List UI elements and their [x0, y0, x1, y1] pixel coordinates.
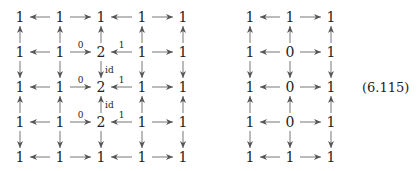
diagram-node: 2 [97, 79, 106, 95]
diagram-node: 0 [286, 44, 295, 60]
diagram-node: 1 [179, 114, 188, 130]
arrow-label: id [105, 100, 114, 110]
diagram-node: 1 [138, 114, 147, 130]
diagram-node: 2 [97, 114, 106, 130]
equation-number: (6.115) [362, 80, 409, 95]
diagram-node: 1 [16, 114, 25, 130]
arrow-label: 0 [78, 75, 84, 85]
diagram-node: 1 [179, 9, 188, 25]
diagram-node: 1 [16, 44, 25, 60]
diagram-node: 1 [327, 79, 336, 95]
diagram-node: 1 [246, 79, 255, 95]
diagram-node: 1 [138, 149, 147, 165]
diagram-node: 1 [246, 114, 255, 130]
diagram-node: 1 [138, 9, 147, 25]
diagram-node: 1 [327, 114, 336, 130]
diagram-node: 1 [16, 79, 25, 95]
right-diagram: 111101101101111 [246, 9, 336, 165]
diagram-node: 1 [97, 9, 106, 25]
diagram-node: 1 [97, 149, 106, 165]
diagram-node: 1 [246, 44, 255, 60]
diagram-node: 1 [327, 9, 336, 25]
diagram-node: 1 [56, 9, 65, 25]
diagram-node: 1 [246, 9, 255, 25]
diagram-node: 1 [16, 9, 25, 25]
diagram-node: 1 [56, 114, 65, 130]
diagram-node: 1 [56, 44, 65, 60]
diagram-node: 2 [97, 44, 106, 60]
diagram-node: 1 [286, 9, 295, 25]
diagram-node: 1 [179, 79, 188, 95]
diagram-node: 1 [246, 149, 255, 165]
diagram-node: 1 [327, 149, 336, 165]
arrow-label: id [105, 65, 114, 75]
arrow-label: 1 [119, 75, 125, 85]
diagram-node: 1 [56, 79, 65, 95]
diagram-node: 1 [179, 149, 188, 165]
arrow-label: 1 [119, 110, 125, 120]
diagram-node: 1 [286, 149, 295, 165]
left-diagram: 1111111211112111121111111010101idid [16, 9, 188, 165]
diagram-node: 0 [286, 114, 295, 130]
commutative-diagrams: 1111111211112111121111111010101idid 1111… [0, 0, 419, 171]
diagram-node: 1 [138, 79, 147, 95]
diagram-node: 1 [327, 44, 336, 60]
diagram-node: 1 [56, 149, 65, 165]
diagram-node: 1 [179, 44, 188, 60]
arrow-label: 0 [78, 110, 84, 120]
arrow-label: 1 [119, 40, 125, 50]
diagram-node: 0 [286, 79, 295, 95]
diagram-node: 1 [16, 149, 25, 165]
diagram-node: 1 [138, 44, 147, 60]
arrow-label: 0 [78, 40, 84, 50]
